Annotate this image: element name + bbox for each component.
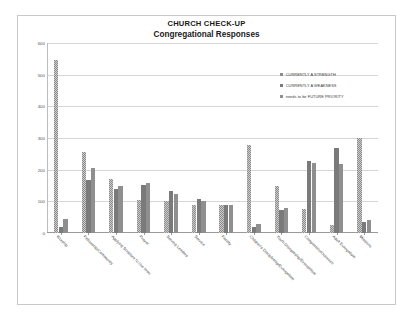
bar xyxy=(137,200,141,233)
legend-item[interactable]: needs to be FUTURE PRIORITY xyxy=(280,92,385,101)
bar xyxy=(330,225,334,233)
bar xyxy=(219,205,223,234)
x-axis-category-label: Serving Leaders xyxy=(166,234,190,258)
chart-title: CHURCH CHECK-UP xyxy=(18,19,395,29)
bar xyxy=(141,185,145,233)
x-axis-category-label: Children's Discipleship/Evangelism xyxy=(248,234,295,281)
y-axis-tick-label: 100 xyxy=(38,199,45,204)
bar xyxy=(339,164,343,233)
chart-legend: CURRENTLY A STRENGTHCURRENTLY A WEAKNESS… xyxy=(280,70,385,103)
x-axis-category-label: Service xyxy=(193,234,206,247)
x-axis-category-label: Compassion/Outreach xyxy=(303,234,335,266)
bar xyxy=(109,179,113,233)
bar xyxy=(118,186,122,233)
legend-item-label: CURRENTLY A WEAKNESS xyxy=(286,83,337,88)
legend-item[interactable]: CURRENTLY A STRENGTH xyxy=(280,70,385,79)
y-axis-tick-label: 200 xyxy=(38,167,45,172)
bar xyxy=(367,220,371,233)
bar-group xyxy=(109,43,123,233)
bar xyxy=(192,205,196,233)
bar xyxy=(229,205,233,233)
legend-swatch-icon xyxy=(280,73,283,76)
y-axis-tick-label: 500 xyxy=(38,72,45,77)
x-axis-category-label: Facility xyxy=(221,234,233,246)
chart-title-block: CHURCH CHECK-UP Congregational Responses xyxy=(18,19,395,40)
legend-item-label: needs to be FUTURE PRIORITY xyxy=(286,94,344,99)
bar xyxy=(164,201,168,233)
bar xyxy=(224,205,228,233)
bar xyxy=(275,186,279,234)
bar xyxy=(54,60,58,233)
y-axis-tick-label: 300 xyxy=(38,136,45,141)
legend-swatch-icon xyxy=(280,95,283,98)
x-axis-category-label: Worship xyxy=(55,234,69,248)
bar xyxy=(63,219,67,233)
bar xyxy=(284,208,288,233)
y-axis-tick-label: 400 xyxy=(38,104,45,109)
bar-group xyxy=(164,43,178,233)
bar xyxy=(362,222,366,233)
bar xyxy=(197,199,201,233)
chart-container: CHURCH CHECK-UP Congregational Responses… xyxy=(17,15,396,305)
bar xyxy=(201,201,205,233)
bar xyxy=(256,224,260,234)
bar-group xyxy=(82,43,96,233)
legend-item[interactable]: CURRENTLY A WEAKNESS xyxy=(280,81,385,90)
x-axis-labels: WorshipFellowship/CommunityApplying Scri… xyxy=(47,234,378,302)
x-axis-category-label: Adult Evangelism xyxy=(331,234,356,259)
bar-group xyxy=(247,43,261,233)
legend-swatch-icon xyxy=(280,84,283,87)
bar xyxy=(169,191,173,233)
bar xyxy=(302,209,306,233)
bar xyxy=(146,183,150,233)
bar xyxy=(91,168,95,233)
x-axis-category-label: Missions xyxy=(359,234,374,249)
bar xyxy=(279,210,283,233)
bar xyxy=(247,145,251,233)
bar xyxy=(307,161,311,233)
legend-item-label: CURRENTLY A STRENGTH xyxy=(286,72,336,77)
bar-group xyxy=(219,43,233,233)
y-axis-tick-label: 0 xyxy=(43,231,45,236)
bar xyxy=(357,138,361,233)
bar xyxy=(82,152,86,233)
bar-group xyxy=(54,43,68,233)
bar xyxy=(334,148,338,233)
bar-group xyxy=(137,43,151,233)
x-axis-category-label: Fellowship/Community xyxy=(83,234,115,266)
bar-group xyxy=(192,43,206,233)
bar xyxy=(86,180,90,233)
y-axis-tick-label: 600 xyxy=(38,41,45,46)
chart-subtitle: Congregational Responses xyxy=(18,29,395,40)
bar xyxy=(174,194,178,233)
bar xyxy=(114,189,118,233)
x-axis-category-label: Prayer xyxy=(138,234,150,246)
bar xyxy=(312,163,316,233)
